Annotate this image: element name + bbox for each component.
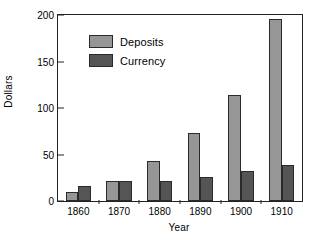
legend-item-currency: Currency [89, 52, 165, 69]
bar-deposits-1870 [106, 181, 119, 201]
y-tick-mark [58, 154, 64, 155]
y-tick-mark [58, 61, 64, 62]
legend-swatch-currency [89, 54, 113, 67]
x-axis-title: Year [55, 222, 303, 233]
y-tick-mark [58, 108, 64, 109]
y-tick-label: 100 [14, 103, 54, 114]
legend-label: Deposits [120, 36, 164, 48]
y-tick-label: 50 [14, 149, 54, 160]
x-tick-label: 1880 [149, 206, 171, 217]
y-axis-title: Dollars [3, 62, 14, 122]
bar-deposits-1860 [66, 192, 79, 201]
bar-currency-1880 [160, 181, 173, 201]
bar-currency-1890 [200, 177, 213, 201]
x-tick-label: 1870 [108, 206, 130, 217]
bar-chart-figure: Dollars 050100150200 1860187018801890190… [0, 0, 320, 242]
x-tick-label: 1890 [189, 206, 211, 217]
bar-deposits-1910 [269, 19, 282, 201]
x-tick-mark [139, 200, 140, 204]
bar-deposits-1890 [188, 133, 201, 201]
bar-deposits-1900 [228, 95, 241, 201]
legend-item-deposits: Deposits [89, 33, 165, 50]
bar-currency-1910 [282, 165, 295, 201]
bar-deposits-1880 [147, 161, 160, 201]
y-tick-label: 0 [14, 196, 54, 207]
y-tick-label: 200 [14, 10, 54, 21]
plot-area: 050100150200 186018701880189019001910 De… [57, 14, 303, 202]
legend-swatch-deposits [89, 35, 113, 48]
y-tick-mark [58, 201, 64, 202]
y-tick-mark [58, 15, 64, 16]
x-tick-mark [98, 200, 99, 204]
legend-label: Currency [120, 55, 165, 67]
y-tick-label: 150 [14, 56, 54, 67]
x-tick-label: 1860 [67, 206, 89, 217]
chart-legend: DepositsCurrency [89, 33, 165, 71]
bar-currency-1870 [119, 181, 132, 201]
bar-currency-1900 [241, 171, 254, 201]
x-tick-mark [261, 200, 262, 204]
x-tick-label: 1910 [271, 206, 293, 217]
x-tick-mark [180, 200, 181, 204]
bar-currency-1860 [78, 186, 91, 201]
x-tick-mark [220, 200, 221, 204]
x-tick-label: 1900 [230, 206, 252, 217]
